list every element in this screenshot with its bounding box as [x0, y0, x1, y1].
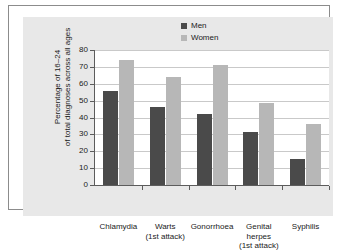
- y-axis-tick-mark: [90, 50, 94, 51]
- y-axis-tick-label: 0: [84, 181, 88, 189]
- y-axis-title-line1: Percentage of 16–24: [53, 50, 62, 124]
- bar-syphilis-women: [306, 124, 321, 185]
- bar-genital-herpes-men: [243, 132, 258, 185]
- y-axis-tick-label: 10: [79, 164, 88, 172]
- y-axis-tick-mark: [90, 134, 94, 135]
- y-axis-title: Percentage of 16–24 of total diagnoses a…: [53, 7, 73, 167]
- legend-swatch-icon: [181, 35, 187, 41]
- y-axis-tick-label: 80: [79, 46, 88, 54]
- x-axis-category-label-line: (1st attack): [219, 241, 299, 251]
- y-axis-tick-mark: [90, 84, 94, 85]
- y-axis-tick-labels: 01020304050607080: [71, 50, 88, 185]
- y-axis-tick-label: 60: [79, 80, 88, 88]
- x-axis-tick-mark: [282, 186, 283, 190]
- gridline: [95, 50, 329, 51]
- legend-label: Women: [191, 33, 218, 43]
- figure-frame: Percentage of 16–24 of total diagnoses a…: [8, 5, 330, 210]
- y-axis-tick-mark: [90, 151, 94, 152]
- legend-label: Men: [191, 21, 207, 31]
- y-axis-tick-mark: [90, 67, 94, 68]
- y-axis-tick-mark: [90, 101, 94, 102]
- x-axis-category-label-line: herpes: [219, 232, 299, 242]
- plot-area: ChlamydiaWarts(1st attack)GonorrhoeaGeni…: [94, 50, 329, 186]
- bar-gonorrhoea-men: [197, 114, 212, 185]
- x-axis-tick-mark: [142, 186, 143, 190]
- chart-panel: Percentage of 16–24 of total diagnoses a…: [23, 17, 333, 216]
- legend-item-women: Women: [181, 33, 218, 43]
- x-axis-category-label-line: Syphilis: [266, 222, 340, 232]
- bar-warts-men: [150, 107, 165, 185]
- y-axis-tick-label: 50: [79, 97, 88, 105]
- legend-item-men: Men: [181, 21, 218, 31]
- bar-syphilis-men: [290, 159, 305, 185]
- y-axis-tick-label: 70: [79, 63, 88, 71]
- bar-chlamydia-men: [103, 91, 118, 186]
- x-axis-tick-mark: [189, 186, 190, 190]
- x-axis-tick-mark: [235, 186, 236, 190]
- x-axis-tick-mark: [329, 186, 330, 190]
- bar-warts-women: [166, 77, 181, 185]
- chart-legend: MenWomen: [181, 21, 218, 45]
- chart-figure: Percentage of 16–24 of total diagnoses a…: [0, 0, 340, 225]
- y-axis-tick-label: 30: [79, 130, 88, 138]
- legend-swatch-icon: [181, 23, 187, 29]
- y-axis-tick-label: 20: [79, 147, 88, 155]
- y-axis-tick-mark: [90, 168, 94, 169]
- y-axis-tick-mark: [90, 185, 94, 186]
- x-axis-category-label-line: (1st attack): [125, 232, 205, 242]
- bar-gonorrhoea-women: [213, 65, 228, 185]
- y-axis-tick-mark: [90, 118, 94, 119]
- y-axis-tick-label: 40: [79, 114, 88, 122]
- bar-chlamydia-women: [119, 60, 134, 185]
- bar-genital-herpes-women: [259, 103, 274, 185]
- x-axis-category-label: Syphilis: [266, 222, 340, 232]
